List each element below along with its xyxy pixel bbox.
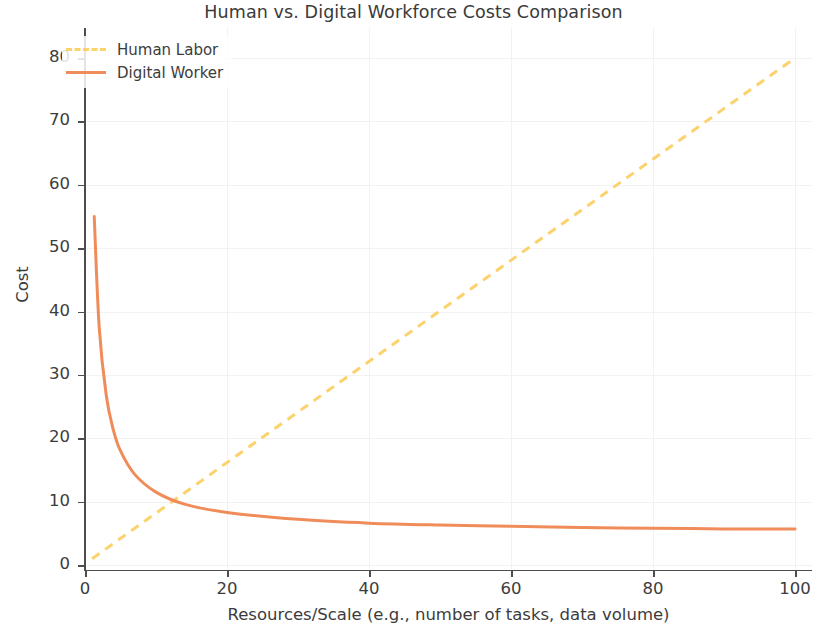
gridline-vertical <box>227 28 228 569</box>
y-tick-mark <box>78 312 84 314</box>
x-tick-label: 0 <box>50 581 120 598</box>
gridline-vertical <box>653 28 654 569</box>
x-axis-spine <box>84 570 812 572</box>
gridline-vertical <box>369 28 370 569</box>
gridline-horizontal <box>86 375 812 376</box>
legend-label-digital-worker: Digital Worker <box>117 64 223 82</box>
x-tick-mark <box>653 571 655 577</box>
x-tick-label: 80 <box>618 581 688 598</box>
gridline-horizontal <box>86 121 812 122</box>
y-tick-label: 80 <box>8 49 70 66</box>
x-tick-label: 100 <box>760 581 827 598</box>
gridline-vertical <box>511 28 512 569</box>
y-tick-mark <box>78 438 84 440</box>
chart-title: Human vs. Digital Workforce Costs Compar… <box>0 2 827 22</box>
legend-swatch-digital-worker <box>66 71 106 74</box>
y-tick-label: 60 <box>8 176 70 193</box>
y-tick-label: 70 <box>8 112 70 129</box>
gridline-horizontal <box>86 312 812 313</box>
chart-figure: Human vs. Digital Workforce Costs Compar… <box>0 0 827 632</box>
gridline-horizontal <box>86 565 812 566</box>
x-tick-mark <box>227 571 229 577</box>
y-axis-spine <box>84 28 86 571</box>
y-tick-mark <box>78 375 84 377</box>
x-tick-label: 20 <box>192 581 262 598</box>
y-tick-label: 30 <box>8 366 70 383</box>
y-tick-mark <box>78 502 84 504</box>
legend-item-human-labor: Human Labor <box>66 38 223 61</box>
y-tick-label: 10 <box>8 493 70 510</box>
x-tick-mark <box>85 571 87 577</box>
y-tick-mark <box>78 121 84 123</box>
x-tick-mark <box>511 571 513 577</box>
x-tick-mark <box>795 571 797 577</box>
y-tick-mark <box>78 248 84 250</box>
gridline-horizontal <box>86 248 812 249</box>
legend-label-human-labor: Human Labor <box>117 41 218 59</box>
plot-area <box>85 28 795 570</box>
x-tick-mark <box>369 571 371 577</box>
chart-legend: Human Labor Digital Worker <box>62 36 231 88</box>
gridline-horizontal <box>86 502 812 503</box>
y-tick-label: 0 <box>8 556 70 573</box>
y-tick-mark <box>78 185 84 187</box>
x-tick-label: 40 <box>334 581 404 598</box>
gridline-horizontal <box>86 185 812 186</box>
x-tick-label: 60 <box>476 581 546 598</box>
gridline-vertical <box>795 28 796 569</box>
gridline-horizontal <box>86 438 812 439</box>
y-tick-mark <box>78 565 84 567</box>
y-axis-label: Cost <box>13 245 32 325</box>
x-axis-label: Resources/Scale (e.g., number of tasks, … <box>85 605 812 624</box>
legend-swatch-human-labor <box>66 48 106 51</box>
legend-item-digital-worker: Digital Worker <box>66 61 223 84</box>
y-tick-label: 20 <box>8 429 70 446</box>
